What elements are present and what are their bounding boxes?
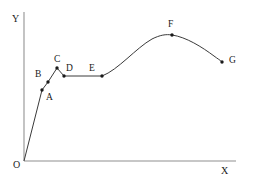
data-point-c — [55, 66, 58, 69]
data-point-g — [220, 60, 223, 63]
point-label-b: B — [35, 70, 41, 80]
data-point-b — [46, 80, 49, 83]
data-point-a — [40, 88, 43, 91]
data-point-f — [170, 33, 173, 36]
point-label-f: F — [168, 20, 173, 30]
point-label-e: E — [89, 64, 95, 74]
origin-label: O — [13, 160, 20, 170]
point-label-c: C — [54, 55, 60, 65]
x-axis-label: X — [221, 166, 228, 176]
diagram-canvas: A B C D E F G O X Y — [0, 0, 258, 188]
point-label-g: G — [229, 56, 236, 66]
data-point-d — [62, 74, 65, 77]
data-point-e — [100, 74, 103, 77]
point-label-a: A — [46, 93, 53, 103]
point-label-d: D — [66, 64, 73, 74]
plot-svg — [0, 0, 258, 188]
y-axis-label: Y — [12, 14, 19, 24]
